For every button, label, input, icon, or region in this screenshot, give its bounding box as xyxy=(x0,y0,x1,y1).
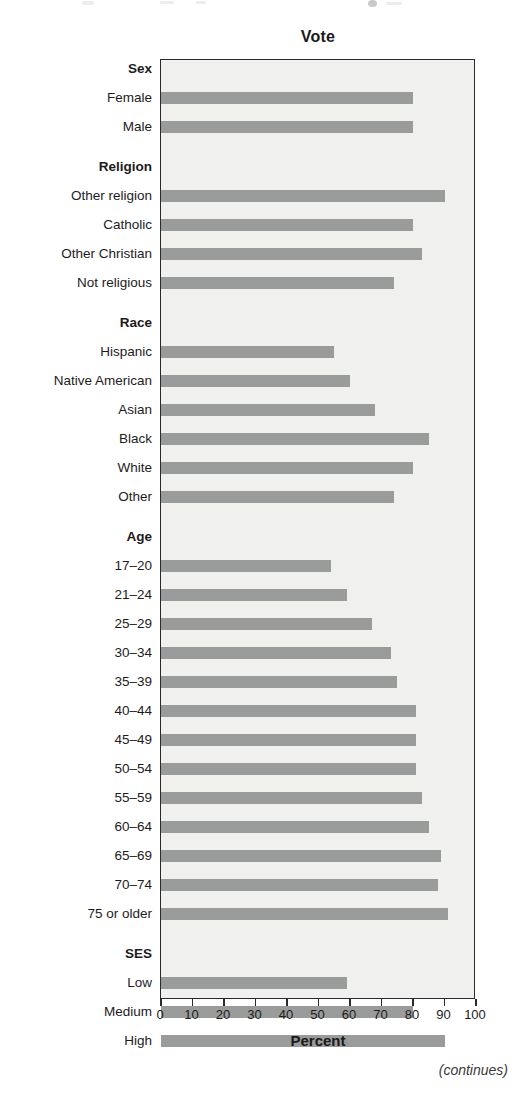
bar-row: 70–74 xyxy=(0,875,530,895)
bar-row-label: 25–29 xyxy=(0,614,152,634)
bar xyxy=(161,121,413,133)
bar-row-label: 40–44 xyxy=(0,701,152,721)
bar xyxy=(161,92,413,104)
group-header-religion: Religion xyxy=(0,157,530,177)
x-axis-tick-label: 100 xyxy=(460,1007,490,1022)
bar-row-label: Asian xyxy=(0,400,152,420)
x-axis-tick xyxy=(318,999,320,1006)
bar-row: Black xyxy=(0,429,530,449)
bar-row: Native American xyxy=(0,371,530,391)
bar-row-label: 65–69 xyxy=(0,846,152,866)
bar xyxy=(161,792,422,804)
bar-row-label: Other xyxy=(0,487,152,507)
x-axis-tick-label: 90 xyxy=(429,1007,459,1022)
bar-row: Hispanic xyxy=(0,342,530,362)
scan-artifact-band xyxy=(0,0,530,14)
bar xyxy=(161,618,372,630)
bar xyxy=(161,763,416,775)
x-axis-tick xyxy=(381,999,383,1006)
scan-artifact-mark xyxy=(160,1,174,4)
x-axis-tick-label: 30 xyxy=(240,1007,270,1022)
bar xyxy=(161,491,394,503)
bar-row-label: Hispanic xyxy=(0,342,152,362)
bar-row: Low xyxy=(0,973,530,993)
bar-row-label: Other Christian xyxy=(0,244,152,264)
x-axis-tick xyxy=(286,999,288,1006)
bar-row: 75 or older xyxy=(0,904,530,924)
bar-row: 65–69 xyxy=(0,846,530,866)
x-axis-tick xyxy=(475,999,477,1006)
bar xyxy=(161,375,350,387)
x-axis-tick-label: 50 xyxy=(303,1007,333,1022)
bar-row: Other xyxy=(0,487,530,507)
bar-row-label: 55–59 xyxy=(0,788,152,808)
bar-row: Other Christian xyxy=(0,244,530,264)
group-header-ses: SES xyxy=(0,944,530,964)
group-header-label: Religion xyxy=(0,157,152,177)
bar-row-label: Low xyxy=(0,973,152,993)
bar-row: 17–20 xyxy=(0,556,530,576)
bar-row: 30–34 xyxy=(0,643,530,663)
x-axis-tick-label: 60 xyxy=(334,1007,364,1022)
x-axis: 0102030405060708090100 xyxy=(160,999,476,1059)
bar-row-label: Female xyxy=(0,88,152,108)
bar-row-label: Other religion xyxy=(0,186,152,206)
bar-row-label: 50–54 xyxy=(0,759,152,779)
scan-artifact-mark xyxy=(386,2,402,5)
bar-row-label: Catholic xyxy=(0,215,152,235)
bar xyxy=(161,705,416,717)
bar xyxy=(161,404,375,416)
bar xyxy=(161,462,413,474)
x-axis-tick-label: 80 xyxy=(397,1007,427,1022)
bar-row-label: Not religious xyxy=(0,273,152,293)
bar xyxy=(161,560,331,572)
scan-artifact-mark xyxy=(196,1,206,4)
bar-row-label: 30–34 xyxy=(0,643,152,663)
x-axis-tick xyxy=(223,999,225,1006)
chart-title: Vote xyxy=(160,28,476,46)
bar xyxy=(161,190,445,202)
bar-row: 60–64 xyxy=(0,817,530,837)
bar-row: 55–59 xyxy=(0,788,530,808)
scan-artifact-mark xyxy=(368,0,377,7)
bar xyxy=(161,277,394,289)
bar-row: Asian xyxy=(0,400,530,420)
x-axis-tick xyxy=(192,999,194,1006)
group-header-label: Sex xyxy=(0,59,152,79)
bar-row-label: Medium xyxy=(0,1002,152,1022)
bar-row-label: 75 or older xyxy=(0,904,152,924)
x-axis-tick-label: 10 xyxy=(177,1007,207,1022)
bar xyxy=(161,647,391,659)
bar-row: Female xyxy=(0,88,530,108)
scan-artifact-mark xyxy=(82,1,94,5)
bar-row-label: High xyxy=(0,1031,152,1051)
bar xyxy=(161,248,422,260)
bar-row-label: Black xyxy=(0,429,152,449)
bar xyxy=(161,346,334,358)
group-header-race: Race xyxy=(0,313,530,333)
bar-row-label: 45–49 xyxy=(0,730,152,750)
bar-row-label: 21–24 xyxy=(0,585,152,605)
bar xyxy=(161,219,413,231)
chart-rows: SexFemaleMaleReligionOther religionCatho… xyxy=(0,59,530,999)
x-axis-tick-label: 70 xyxy=(366,1007,396,1022)
x-axis-tick xyxy=(255,999,257,1006)
bar xyxy=(161,676,397,688)
bar-row: 50–54 xyxy=(0,759,530,779)
bar xyxy=(161,589,347,601)
bar-row: 35–39 xyxy=(0,672,530,692)
bar-row: 40–44 xyxy=(0,701,530,721)
group-header-age: Age xyxy=(0,527,530,547)
group-header-label: Age xyxy=(0,527,152,547)
bar-row: 45–49 xyxy=(0,730,530,750)
bar-row-label: Native American xyxy=(0,371,152,391)
bar-row: Not religious xyxy=(0,273,530,293)
bar-row-label: White xyxy=(0,458,152,478)
bar xyxy=(161,879,438,891)
group-header-label: Race xyxy=(0,313,152,333)
x-axis-tick-label: 0 xyxy=(145,1007,175,1022)
bar xyxy=(161,433,429,445)
bar-row: White xyxy=(0,458,530,478)
x-axis-title: Percent xyxy=(160,1032,476,1049)
bar-row-label: 70–74 xyxy=(0,875,152,895)
